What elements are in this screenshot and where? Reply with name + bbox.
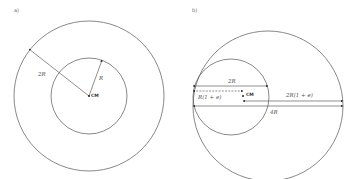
- cm-label-a: CM: [91, 93, 99, 98]
- small-diameter-label: 2R: [227, 78, 236, 84]
- radius-label-r: R: [98, 75, 103, 81]
- distance-label-2r: 2R: [37, 71, 46, 77]
- large-offset-label: 2R(1 + e): [285, 92, 313, 98]
- panel-b-label: b): [192, 7, 197, 13]
- panel-a-label: a): [14, 7, 19, 13]
- diagram-canvas: a) 2R R CM b) 2R R(1 + e) CM 2R(1 + e) 4…: [0, 0, 355, 179]
- large-diameter-label: 4R: [269, 109, 278, 115]
- panel-a: a) 2R R CM: [14, 7, 164, 171]
- panel-b: b) 2R R(1 + e) CM 2R(1 + e) 4R: [192, 7, 343, 179]
- cm-label-b: CM: [246, 92, 254, 97]
- offset-label: R(1 + e): [197, 94, 221, 100]
- cm-point-b: [242, 95, 244, 97]
- cm-point-a: [88, 95, 90, 97]
